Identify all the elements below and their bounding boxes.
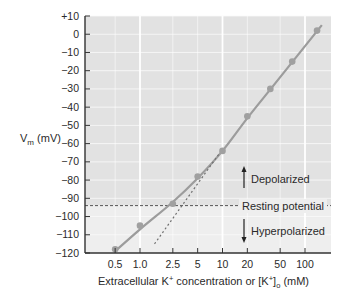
y-tick-label: −90 — [61, 192, 79, 204]
y-tick-label: −20 — [61, 64, 79, 76]
y-tick-label: −10 — [61, 46, 79, 58]
x-tick-label: 20 — [241, 258, 253, 270]
plot-background — [85, 16, 331, 253]
data-point — [244, 113, 251, 120]
depolarized-label: Depolarized — [251, 173, 310, 185]
x-tick-label: 50 — [274, 258, 286, 270]
y-tick-label: −50 — [61, 119, 79, 131]
y-tick-label: −100 — [55, 210, 79, 222]
data-point — [289, 58, 296, 65]
hyperpolarized-label: Hyperpolarized — [251, 225, 325, 237]
data-point — [314, 27, 321, 34]
data-point — [137, 222, 144, 229]
y-tick-label: −60 — [61, 137, 79, 149]
y-axis-label: Vm (mV) — [20, 132, 61, 147]
x-tick-label: 2.5 — [166, 258, 181, 270]
data-point — [194, 173, 201, 180]
x-tick-label: 5 — [195, 258, 201, 270]
y-tick-label: −120 — [55, 247, 79, 259]
y-tick-label: +10 — [61, 10, 79, 22]
y-tick-label: −30 — [61, 82, 79, 94]
resting-potential-label: Resting potential — [242, 200, 324, 212]
y-tick-label: −110 — [56, 228, 79, 240]
data-point — [170, 200, 177, 207]
y-tick-label: −70 — [61, 155, 79, 167]
resting-potential-annotation: Resting potential — [239, 199, 327, 213]
data-point — [267, 86, 274, 93]
y-tick-label: −80 — [61, 174, 79, 186]
chart: 0.51.02.55102050100 +100−10−20−30−40−50−… — [0, 0, 340, 293]
x-tick-label: 100 — [296, 258, 314, 270]
y-tick-label: 0 — [73, 28, 79, 40]
data-point — [219, 148, 226, 155]
y-tick-label: −40 — [61, 101, 79, 113]
x-tick-label: 1.0 — [133, 258, 148, 270]
x-tick-label: 0.5 — [108, 258, 123, 270]
x-tick-label: 10 — [217, 258, 229, 270]
x-axis-label: Extracellular K+ concentration or [K+]o … — [98, 274, 309, 290]
